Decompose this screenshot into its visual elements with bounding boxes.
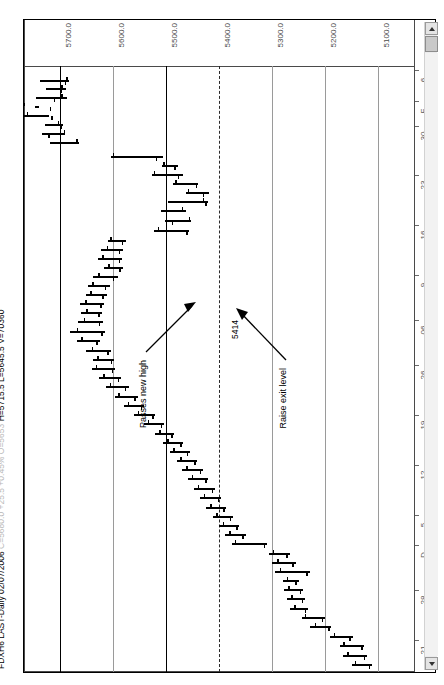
plot-left-border [24, 20, 25, 672]
price-gridline-5300 [272, 66, 273, 672]
price-tick-label-5300: 5300.0 [276, 23, 285, 47]
ohlc-close-tick [60, 143, 62, 147]
ohlc-close-tick [99, 322, 101, 326]
ohlc-close-tick [286, 554, 288, 558]
ohlc-open-tick [210, 504, 212, 508]
chart-title-bar: FDXH6 LAST-Daily 02/07/2006 C=5680.0 +25… [8, 19, 24, 673]
ohlc-open-tick [92, 282, 94, 286]
ohlc-close-tick [119, 259, 121, 263]
price-tick-label-5700: 5700.0 [64, 23, 73, 47]
annotation-exit-level-value: 5414 [230, 320, 240, 339]
price-tick-label-5100: 5100.0 [382, 23, 391, 47]
ohlc-close-tick [172, 221, 174, 225]
ohlc-bar [154, 230, 189, 232]
ohlc-close-tick [322, 618, 324, 622]
ohlc-close-tick [364, 656, 366, 660]
ohlc-bar [50, 142, 79, 144]
leader-raise-exit-level [240, 312, 286, 360]
ohlc-close-tick [102, 295, 104, 299]
leader-passes-new-high [146, 306, 192, 352]
date-tick [415, 320, 419, 321]
chart-title-text: FDXH6 LAST-Daily 02/07/2006 C=5680.0 +25… [0, 310, 8, 669]
ohlc-close-tick [369, 665, 371, 669]
ohlc-close-tick [174, 166, 176, 170]
ohlc-close-tick [119, 250, 121, 254]
chart-quote-main: H=5715.5 L=5645.5 V=70360 [0, 310, 6, 422]
ohlc-close-tick [96, 341, 98, 345]
ohlc-close-tick [111, 360, 113, 364]
price-tick-label-5200: 5200.0 [329, 23, 338, 47]
ohlc-close-tick [105, 286, 107, 290]
ohlc-close-tick [166, 211, 168, 215]
scrollbar-thumb[interactable] [425, 36, 438, 52]
ohlc-close-tick [205, 202, 207, 206]
ohlc-open-tick [294, 605, 296, 609]
ohlc-open-tick [128, 402, 130, 406]
ohlc-open-tick [85, 300, 87, 304]
ohlc-open-tick [287, 577, 289, 581]
scrollbar-track[interactable] [425, 53, 438, 656]
chart-plot-area[interactable]: 5700.05600.05500.05400.05300.05200.05100… [24, 20, 414, 672]
annotation-raise-exit-level: Raise exit level [278, 368, 288, 429]
ohlc-close-tick [361, 646, 363, 650]
ohlc-close-tick [119, 268, 121, 272]
price-tick-label-5500: 5500.0 [170, 23, 179, 47]
triangle-up-icon [429, 27, 435, 31]
ohlc-open-tick [107, 246, 109, 250]
price-gridline-5400 [219, 66, 220, 672]
ohlc-open-tick [288, 586, 290, 590]
ohlc-open-tick [64, 130, 66, 134]
vertical-scrollbar[interactable] [424, 22, 437, 670]
ohlc-close-tick [212, 489, 214, 493]
chart-quote-dim: C=5680.0 +25.5 +0.45% O=5653 [0, 424, 6, 549]
ohlc-close-tick [54, 98, 56, 102]
ohlc-open-tick [90, 291, 92, 295]
ohlc-close-tick [107, 351, 109, 355]
ohlc-open-tick [189, 217, 191, 221]
ohlc-close-tick [152, 415, 154, 419]
ohlc-close-tick [65, 81, 67, 85]
triangle-down-icon [429, 662, 435, 666]
ohlc-close-tick [161, 424, 163, 428]
ohlc-open-tick [148, 420, 150, 424]
ohlc-open-tick [110, 383, 112, 387]
ohlc-open-tick [98, 273, 100, 277]
ohlc-open-tick [27, 112, 29, 116]
date-tick [415, 515, 419, 516]
chart-window-root: FDXH6 LAST-Daily 02/07/2006 C=5680.0 +25… [0, 0, 444, 685]
ohlc-open-tick [355, 661, 357, 665]
ohlc-bar [35, 106, 38, 108]
ohlc-bar [42, 133, 65, 135]
scrollbar-down-button[interactable] [425, 657, 438, 670]
ohlc-close-tick [50, 107, 52, 111]
ohlc-close-tick [236, 526, 238, 530]
ohlc-close-tick [156, 157, 158, 161]
date-tick [415, 175, 419, 176]
ohlc-close-tick [180, 443, 182, 447]
date-tick [415, 225, 419, 226]
ohlc-close-tick [113, 277, 115, 281]
ohlc-open-tick [113, 153, 115, 157]
ohlc-open-tick [216, 513, 218, 517]
ohlc-bar [46, 88, 66, 90]
ohlc-close-tick [305, 609, 307, 613]
ohlc-close-tick [218, 498, 220, 502]
ohlc-bar [165, 220, 191, 222]
arrowhead-raise-exit-level [236, 308, 248, 320]
ohlc-open-tick [61, 85, 63, 89]
ohlc-open-tick [186, 466, 188, 470]
ohlc-close-tick [98, 313, 100, 317]
date-tick [415, 465, 419, 466]
ohlc-open-tick [192, 475, 194, 479]
ohlc-open-tick [154, 171, 156, 175]
date-tick [415, 126, 419, 127]
date-tick [415, 365, 419, 366]
ohlc-close-tick [171, 434, 173, 438]
scrollbar-up-button[interactable] [425, 22, 438, 35]
ohlc-close-tick [230, 517, 232, 521]
ohlc-close-tick [122, 241, 124, 245]
ohlc-close-tick [306, 572, 308, 576]
ohlc-open-tick [159, 430, 161, 434]
ohlc-open-tick [76, 139, 78, 143]
ohlc-open-tick [158, 227, 160, 231]
